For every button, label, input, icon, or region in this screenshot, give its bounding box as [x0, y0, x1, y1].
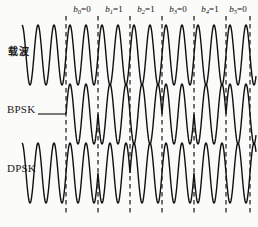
row-label-bpsk: BPSK — [7, 104, 35, 115]
carrier-waveform — [22, 25, 256, 85]
bit-label-4: b4=1 — [201, 5, 218, 14]
dpsk-waveform — [22, 143, 256, 203]
dpsk-wave-path — [22, 143, 256, 203]
bpsk-wave-path — [66, 84, 256, 144]
bit-label-2: b2=1 — [137, 5, 154, 14]
bit-label-5: b5=0 — [229, 5, 246, 14]
bit-label-3: b3=0 — [169, 5, 186, 14]
carrier-wave-path — [22, 25, 256, 85]
row-label-dpsk: DPSK — [7, 163, 36, 174]
bit-label-0: b0=0 — [73, 5, 90, 14]
bit-boundary-lines — [66, 16, 250, 214]
row-label-carrier: 载波 — [8, 47, 29, 57]
bit-label-1: b1=1 — [105, 5, 122, 14]
bpsk-waveform — [66, 84, 256, 144]
waveform-canvas — [0, 0, 258, 227]
waveform-figure: 载波 BPSK DPSK b0=0b1=1b2=1b3=0b4=1b5=0 — [0, 0, 258, 227]
